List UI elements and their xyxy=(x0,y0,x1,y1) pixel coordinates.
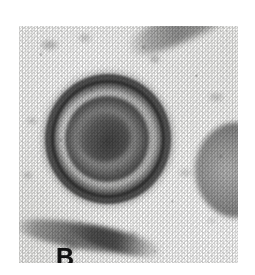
figure-panel: B xyxy=(0,0,255,275)
panel-label: B xyxy=(56,245,74,263)
electron-micrograph-image: B xyxy=(19,26,238,263)
film-grain-mottle xyxy=(19,26,238,263)
